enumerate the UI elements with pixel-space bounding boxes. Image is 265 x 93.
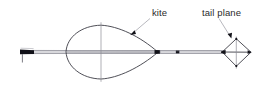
tail-plane-label: tail plane: [202, 7, 241, 18]
towing-handle-group: [20, 48, 34, 62]
kite-callout-group: [130, 19, 150, 36]
kite-tailplane-diagram: kite tail plane: [0, 0, 265, 93]
kite-leader-line: [134, 19, 151, 33]
kite-label: kite: [152, 7, 167, 18]
kite-body-group: [66, 22, 158, 82]
kite-tip-connector: [155, 50, 161, 54]
towing-handle: [20, 49, 34, 54]
tail-plane-top-node: [235, 38, 237, 40]
kite-tip-connector-group: [155, 50, 161, 54]
link-rod-group: [160, 50, 224, 54]
diagram-canvas: kite tail plane: [0, 0, 265, 93]
tail-plane-bottom-node: [235, 65, 237, 67]
tail-plane-leader-line: [219, 19, 230, 37]
tail-plane-group: [221, 37, 252, 69]
tail-plane-callout-group: [219, 19, 232, 39]
